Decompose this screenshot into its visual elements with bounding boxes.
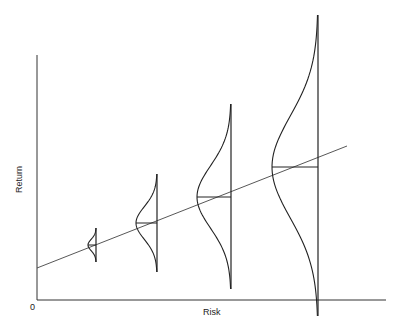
risk-return-diagram: 0 Risk Return (0, 0, 402, 330)
distribution-2 (136, 174, 157, 272)
origin-label: 0 (30, 302, 35, 312)
trend-line (37, 146, 347, 268)
distribution-1 (88, 228, 96, 262)
y-axis-label: Return (14, 166, 24, 193)
x-axis-label: Risk (203, 307, 221, 317)
distributions (88, 15, 318, 316)
distribution-4 (272, 15, 318, 316)
distribution-3 (197, 104, 231, 289)
